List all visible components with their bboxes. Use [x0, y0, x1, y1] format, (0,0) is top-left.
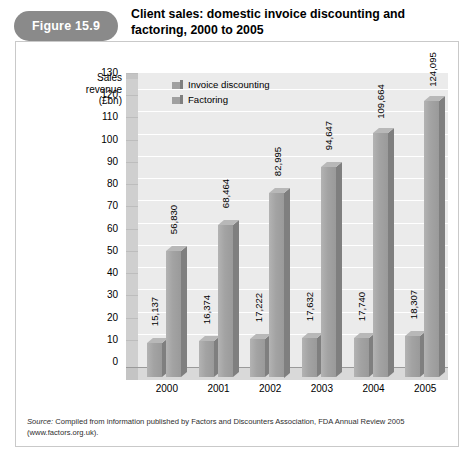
- y-tick-120: 120: [92, 89, 118, 101]
- bar-factoring-2004: 17,740: [354, 338, 369, 377]
- plot-area: 15,13756,83016,37468,46417,22282,99517,6…: [126, 73, 448, 389]
- bar-side: [233, 220, 239, 377]
- chart-legend: Invoice discounting Factoring: [172, 79, 270, 109]
- bar-value-label: 68,464: [220, 179, 231, 208]
- y-tick-30: 30: [92, 289, 118, 301]
- y-tick-110: 110: [92, 111, 118, 123]
- bar-invoice-discounting-2005: 124,095: [424, 101, 439, 377]
- gridline-side-40: [126, 273, 138, 274]
- gridline-side-120: [126, 95, 138, 96]
- bar-factoring-2001: 16,374: [199, 341, 214, 377]
- y-tick-60: 60: [92, 223, 118, 235]
- bar-invoice-discounting-2002: 82,995: [269, 193, 284, 378]
- bar-factoring-2005: 18,307: [405, 336, 420, 377]
- bar-invoice-discounting-2000: 56,830: [166, 251, 181, 377]
- legend-item-invoice-discounting: Invoice discounting: [172, 79, 270, 92]
- legend-item-factoring: Factoring: [172, 94, 270, 107]
- bar-invoice-discounting-2004: 109,664: [373, 133, 388, 377]
- figure-container: Figure 15.9 Client sales: domestic invoi…: [0, 0, 465, 459]
- y-tick-10: 10: [92, 334, 118, 346]
- bar-front: [321, 167, 336, 377]
- bar-front: [405, 336, 420, 377]
- bar-value-label: 17,740: [356, 291, 367, 320]
- gridline-side-10: [126, 340, 138, 341]
- gridline-side-30: [126, 295, 138, 296]
- bar-side: [284, 187, 290, 377]
- bar-invoice-discounting-2001: 68,464: [218, 225, 233, 377]
- gridline-80: [138, 178, 448, 179]
- gridline-side-60: [126, 229, 138, 230]
- bar-side: [388, 128, 394, 377]
- bar-value-label: 82,995: [271, 146, 282, 175]
- bar-invoice-discounting-2003: 94,647: [321, 167, 336, 377]
- y-tick-80: 80: [92, 178, 118, 190]
- bar-front: [199, 341, 214, 377]
- figure-number-badge: Figure 15.9: [14, 11, 118, 41]
- gridline-60: [138, 223, 448, 224]
- y-tick-20: 20: [92, 312, 118, 324]
- gridline-100: [138, 134, 448, 135]
- bar-side: [181, 246, 187, 377]
- plot-floor-left: [126, 368, 138, 380]
- bar-value-label: 16,374: [201, 294, 212, 323]
- y-tick-0: 0: [92, 356, 118, 368]
- bar-side: [439, 96, 445, 377]
- bar-front: [354, 338, 369, 377]
- gridline-side-130: [126, 73, 138, 74]
- y-tick-50: 50: [92, 245, 118, 257]
- bar-side: [336, 162, 342, 377]
- legend-label-factoring: Factoring: [188, 94, 228, 105]
- bar-value-label: 56,830: [168, 205, 179, 234]
- gridline-110: [138, 111, 448, 112]
- gridline-side-90: [126, 162, 138, 163]
- gridline-side-50: [126, 251, 138, 252]
- figure-number-label: Figure 15.9: [14, 11, 118, 41]
- gridline-70: [138, 200, 448, 201]
- bar-value-label: 94,647: [323, 120, 334, 149]
- bar-factoring-2003: 17,632: [302, 338, 317, 377]
- bar-value-label: 109,664: [375, 84, 386, 119]
- bar-factoring-2002: 17,222: [250, 339, 265, 377]
- bar-front: [302, 338, 317, 377]
- source-note: Source: Compiled from information publis…: [27, 417, 447, 438]
- legend-swatch-factoring: [172, 95, 183, 104]
- gridline-side-20: [126, 318, 138, 319]
- legend-label-invoice-discounting: Invoice discounting: [188, 79, 270, 90]
- legend-swatch-invoice-discounting: [172, 80, 183, 89]
- y-tick-130: 130: [92, 67, 118, 79]
- y-tick-70: 70: [92, 200, 118, 212]
- gridline-side-110: [126, 117, 138, 118]
- gridline-side-80: [126, 184, 138, 185]
- bar-front: [166, 251, 181, 377]
- source-note-prefix: Source:: [27, 417, 53, 426]
- y-tick-40: 40: [92, 267, 118, 279]
- bar-front: [373, 133, 388, 377]
- figure-title: Client sales: domestic invoice discounti…: [131, 7, 456, 38]
- y-tick-90: 90: [92, 156, 118, 168]
- bar-value-label: 124,095: [426, 52, 437, 87]
- bar-front: [250, 339, 265, 377]
- bar-factoring-2000: 15,137: [147, 343, 162, 377]
- gridline-side-100: [126, 140, 138, 141]
- y-tick-100: 100: [92, 134, 118, 146]
- bar-front: [424, 101, 439, 377]
- bar-front: [147, 343, 162, 377]
- source-note-text: Compiled from information published by F…: [27, 417, 404, 437]
- bar-value-label: 17,632: [304, 292, 315, 321]
- bar-front: [218, 225, 233, 377]
- gridline-side-70: [126, 206, 138, 207]
- bar-value-label: 18,307: [407, 290, 418, 319]
- bar-value-label: 17,222: [252, 293, 263, 322]
- gridline-130: [138, 67, 448, 68]
- bar-front: [269, 193, 284, 378]
- bar-value-label: 15,137: [149, 297, 160, 326]
- gridline-90: [138, 156, 448, 157]
